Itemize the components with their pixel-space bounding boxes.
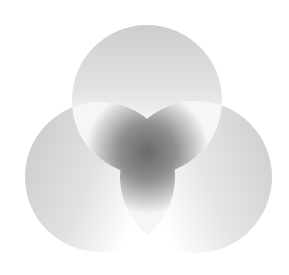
venn-diagram — [0, 0, 289, 275]
